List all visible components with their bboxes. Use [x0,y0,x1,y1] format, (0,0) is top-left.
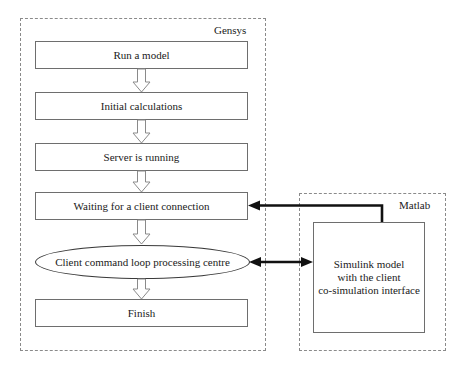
node-run-a-model[interactable]: Run a model [35,41,248,69]
simulink-line-3: co-simulation interface [318,284,420,297]
group-gensys-label: Gensys [214,24,246,36]
node-waiting-for-client-connection[interactable]: Waiting for a client connection [35,192,248,220]
node-initial-calculations[interactable]: Initial calculations [35,92,248,120]
diagram-canvas: Gensys Matlab Run a model Initial calcul… [0,0,463,369]
node-finish[interactable]: Finish [35,299,248,327]
group-matlab-label: Matlab [399,199,430,211]
node-simulink-model[interactable]: Simulink model with the client co-simula… [313,222,425,333]
node-server-is-running[interactable]: Server is running [35,143,248,171]
simulink-line-1: Simulink model [334,258,405,271]
node-client-command-loop[interactable]: Client command loop processing centre [35,245,250,279]
simulink-line-2: with the client [338,271,401,284]
